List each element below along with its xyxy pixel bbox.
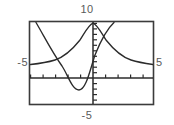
plot-canvas xyxy=(0,0,174,125)
graph-widget: 10 -5 5 -5 xyxy=(0,0,174,125)
y-axis-ticks xyxy=(93,23,97,100)
plot-frame xyxy=(30,22,154,105)
